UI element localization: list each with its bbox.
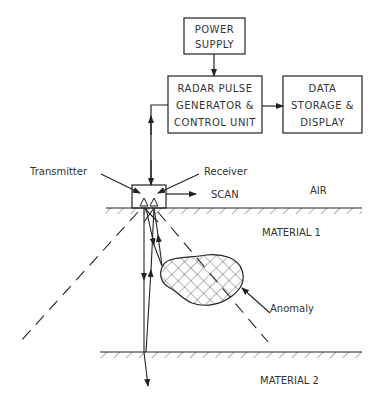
data-unit-line2: STORAGE &	[291, 100, 354, 111]
transmitter-label: Transmitter	[29, 166, 88, 177]
scan-label: SCAN	[211, 189, 239, 200]
receiver-pointer	[158, 174, 199, 193]
receiver-label: Receiver	[204, 166, 248, 177]
receiver-icon	[150, 198, 158, 206]
material1-label: MATERIAL 1	[262, 227, 321, 238]
anomaly-region	[161, 255, 244, 306]
transmitter-pointer	[101, 174, 140, 193]
transmitter-icon	[140, 198, 148, 206]
radar-ray-paths	[144, 208, 162, 386]
material2-label: MATERIAL 2	[260, 375, 319, 386]
beam-edge-left	[20, 212, 138, 342]
radar-antenna-cable	[151, 105, 168, 185]
anomaly-label: Anomaly	[270, 303, 314, 314]
radar-unit-line3: CONTROL UNIT	[174, 117, 256, 128]
interface-material2	[100, 352, 362, 358]
gpr-diagram: POWER SUPPLY RADAR PULSE GENERATOR & CON…	[0, 0, 382, 406]
data-unit-line1: DATA	[309, 83, 337, 94]
power-supply-line1: POWER	[195, 24, 235, 35]
data-storage-block: DATA STORAGE & DISPLAY	[283, 76, 362, 133]
anomaly-pointer	[242, 288, 270, 313]
air-label: AIR	[310, 185, 327, 196]
antenna-box	[132, 185, 166, 208]
radar-unit-block: RADAR PULSE GENERATOR & CONTROL UNIT	[168, 76, 262, 133]
radar-unit-line1: RADAR PULSE	[178, 83, 253, 94]
power-supply-block: POWER SUPPLY	[184, 18, 245, 54]
power-supply-line2: SUPPLY	[195, 39, 234, 50]
data-unit-line3: DISPLAY	[300, 117, 345, 128]
radar-unit-line2: GENERATOR &	[176, 100, 254, 111]
